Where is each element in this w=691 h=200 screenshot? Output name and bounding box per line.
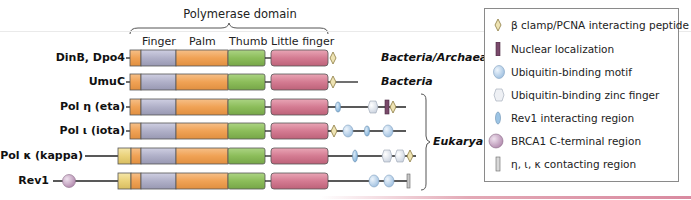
track-pol-kappa [85, 148, 416, 164]
kingdom-bacteria: Bacteria [381, 75, 433, 88]
kingdom-eukarya: Eukarya [433, 135, 483, 148]
oval-icon [493, 65, 507, 79]
bottom-accent-line [320, 196, 691, 199]
hexagon-icon [493, 88, 507, 102]
eukarya-brace [421, 94, 430, 190]
track-pol-iota [126, 123, 406, 139]
kingdom-bacteria-archaea: Bacteria/Archaea [381, 51, 487, 64]
row-label-umuc: UmuC [89, 75, 125, 88]
track-umuc [126, 74, 358, 90]
legend: β clamp/PCNA interacting peptide Nuclear… [484, 8, 679, 182]
track-dinb [126, 50, 336, 66]
ellipse-icon [493, 111, 505, 125]
sphere-icon [488, 133, 504, 149]
row-label-pol-eta: Pol η (eta) [60, 100, 125, 113]
row-label-rev1: Rev1 [18, 174, 49, 187]
row-label-pol-kappa: Pol κ (kappa) [0, 149, 83, 162]
bar-icon [493, 42, 505, 56]
rect-icon [493, 156, 505, 172]
row-label-pol-iota: Pol ι (iota) [60, 124, 125, 137]
track-pol-eta [126, 99, 406, 115]
diamond-icon [493, 18, 505, 32]
track-rev1 [53, 173, 410, 189]
